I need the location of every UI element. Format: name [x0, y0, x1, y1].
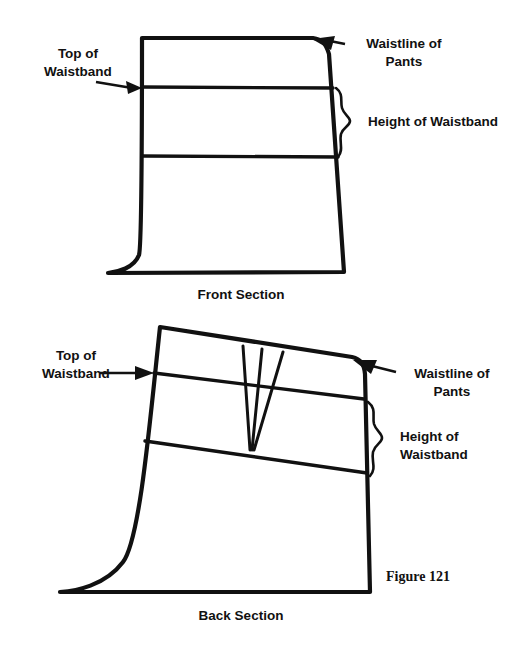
back-height-of-waistband-label-line1: Height of — [400, 429, 459, 444]
back-waistline-label-line2: Pants — [434, 384, 471, 399]
front-section-group: Top of Waistband Waistline of Pants Heig… — [44, 36, 498, 302]
front-top-of-waistband-arrowhead — [126, 81, 142, 94]
figure-canvas: Top of Waistband Waistline of Pants Heig… — [0, 0, 525, 645]
front-top-of-waistband-line — [142, 87, 333, 88]
front-bottom-of-waistband-line — [142, 156, 338, 157]
back-dart-line-left — [243, 346, 250, 450]
front-top-of-waistband-label-line2: Waistband — [44, 64, 112, 79]
back-height-of-waistband-label-line2: Waistband — [400, 447, 468, 462]
front-waistline-label-line2: Pants — [386, 54, 423, 69]
front-top-of-waistband-label-line1: Top of — [58, 46, 99, 61]
pattern-illustration: Top of Waistband Waistline of Pants Heig… — [0, 0, 525, 645]
back-section-caption: Back Section — [199, 608, 284, 623]
back-top-of-waistband-label-line2: Waistband — [42, 366, 110, 381]
back-top-of-waistband-arrowhead — [135, 366, 154, 380]
front-section-caption: Front Section — [198, 287, 285, 302]
front-height-of-waistband-label: Height of Waistband — [368, 114, 498, 129]
back-top-of-waistband-label-line1: Top of — [56, 348, 97, 363]
back-waistline-leader — [372, 366, 396, 372]
figure-number-label: Figure 121 — [386, 569, 450, 584]
back-section-group: Top of Waistband Waistline of Pants Heig… — [42, 327, 490, 623]
back-height-brace — [368, 402, 382, 476]
front-height-brace — [336, 88, 350, 157]
back-waistline-label-line1: Waistline of — [414, 366, 490, 381]
front-waistline-label-line1: Waistline of — [366, 36, 442, 51]
